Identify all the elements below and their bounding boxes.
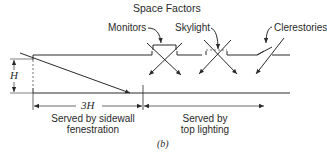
sidewall-label-line2: fenestration xyxy=(48,124,138,135)
toplighting-label-line2: top lighting xyxy=(175,124,235,135)
height-label: H xyxy=(10,70,18,81)
clerestory-roof xyxy=(257,47,272,55)
roof-line xyxy=(33,51,290,55)
figure-title: Space Factors xyxy=(133,3,201,14)
skylight-label: Skylight xyxy=(175,22,210,33)
clerestories-label: Clerestories xyxy=(274,22,327,33)
figure-caption: (b) xyxy=(157,138,169,149)
toplighting-label-line1: Served by xyxy=(175,113,235,124)
monitor-roof xyxy=(153,45,176,50)
depth-label: 3H xyxy=(81,100,94,111)
monitors-label: Monitors xyxy=(108,22,146,33)
sidewall-label-line1: Served by sidewall xyxy=(48,113,138,124)
